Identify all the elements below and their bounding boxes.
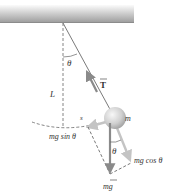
- pendulum-string: [63, 23, 112, 113]
- radial-force-arrow: [117, 128, 130, 160]
- pendulum-diagram: θ L T s m mg sin θ θ mg cos θ mg: [0, 0, 181, 195]
- radial-component-label: mg cos θ: [134, 156, 162, 165]
- component-dashed-line-left: [88, 127, 110, 174]
- angle-arc-bottom: [110, 140, 121, 142]
- ceiling: [0, 5, 134, 23]
- arc-length-label: s: [80, 114, 83, 122]
- mass-label: m: [125, 114, 131, 123]
- gravity-label-text: mg: [103, 182, 113, 191]
- component-dashed-line-bottom: [110, 163, 131, 174]
- tangential-component-label: mg sin θ: [49, 132, 76, 141]
- gravity-label: mg: [103, 182, 113, 191]
- length-label: L: [49, 89, 55, 99]
- angle-arc-top: [63, 54, 77, 57]
- tangential-force-arrow: [88, 122, 106, 127]
- angle-label-bottom: θ: [112, 146, 117, 156]
- angle-label-top: θ: [67, 58, 72, 68]
- pendulum-bob: [104, 107, 126, 129]
- tension-label: T: [100, 80, 106, 90]
